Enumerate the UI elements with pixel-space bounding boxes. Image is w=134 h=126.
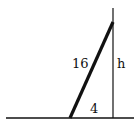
ladder-diagram: 16 h 4 [0,0,134,126]
base-label: 4 [90,101,98,116]
hypotenuse-label: 16 [72,56,89,71]
height-label: h [117,56,126,71]
